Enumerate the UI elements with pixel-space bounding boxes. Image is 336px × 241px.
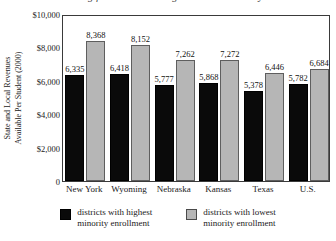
x-axis-label-u-s-: U.S. (300, 184, 316, 195)
bar-new-york-series0 (65, 75, 84, 181)
bar-value-label: 6,446 (259, 63, 290, 72)
y-axis-zero-label: 0 (56, 178, 60, 187)
bar-new-york-series1 (86, 41, 105, 181)
plot-area: 6,3358,3686,4188,1525,7777,2625,8687,272… (62, 15, 330, 182)
x-axis-label-new-york: New York (66, 184, 103, 195)
y-axis-tick-8000: $8,000 (37, 44, 60, 53)
bar-value-label: 7,272 (214, 50, 245, 59)
bar-nebraska-series0 (155, 85, 174, 181)
bar-texas-series1 (265, 73, 284, 181)
bar-kansas-series1 (220, 60, 239, 181)
legend-item-lowest-minority: districts with lowest minority enrollmen… (186, 207, 276, 237)
y-axis-caption: State and Local Revenues Available Per S… (1, 14, 25, 182)
chart-legend: districts with highest minority enrollme… (0, 207, 336, 237)
chart-title-clipped: State Funding for Students in High and L… (0, 0, 336, 3)
y-axis-caption-line1: State and Local Revenues (3, 52, 14, 145)
y-axis-tick-6000: $6,000 (37, 77, 60, 86)
x-axis-label-kansas: Kansas (205, 184, 231, 195)
bars-container: 6,3358,3686,4188,1525,7777,2625,8687,272… (63, 16, 329, 181)
bar-texas-series0 (244, 91, 263, 181)
bar-u-s--series1 (310, 69, 329, 181)
y-axis-tick-2000: $2,000 (37, 144, 60, 153)
x-axis-label-wyoming: Wyoming (111, 184, 146, 195)
bar-kansas-series0 (199, 83, 218, 181)
bar-wyoming-series0 (110, 74, 129, 181)
y-axis-tick-labels: 0 $2,000$4,000$6,000$8,000$10,000 (24, 14, 62, 182)
bar-nebraska-series1 (176, 60, 195, 181)
bar-wyoming-series1 (131, 45, 150, 181)
bar-value-label: 8,152 (125, 35, 156, 44)
legend-swatch-black-icon (60, 209, 71, 220)
legend-label-highest: districts with highest minority enrollme… (77, 207, 152, 229)
y-axis-caption-line2: Available Per Student (2000) (13, 52, 24, 145)
bar-u-s--series0 (289, 84, 308, 181)
bar-value-label: 8,368 (80, 31, 111, 40)
chart-title-text: State Funding for Students in High and L… (0, 0, 336, 2)
x-axis-category-labels: New YorkWyomingNebraskaKansasTexasU.S. (62, 184, 330, 198)
bar-value-label: 7,262 (170, 50, 201, 59)
x-axis-label-nebraska: Nebraska (157, 184, 191, 195)
y-axis-tick-10000: $10,000 (32, 11, 60, 20)
bar-value-label: 6,684 (304, 59, 335, 68)
legend-item-highest-minority: districts with highest minority enrollme… (60, 207, 152, 237)
legend-swatch-gray-icon (186, 209, 197, 220)
x-axis-label-texas: Texas (253, 184, 274, 195)
legend-label-lowest: districts with lowest minority enrollmen… (203, 207, 276, 229)
y-axis-tick-4000: $4,000 (37, 111, 60, 120)
